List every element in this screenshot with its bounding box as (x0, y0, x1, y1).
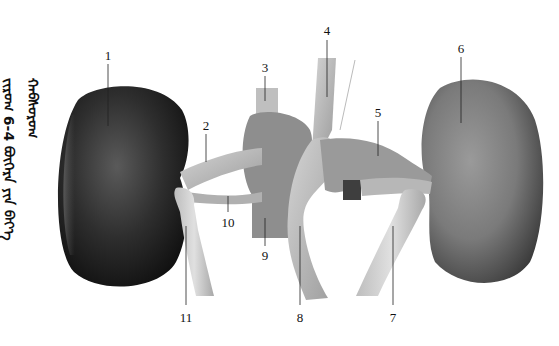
label-10: 10 (222, 215, 235, 230)
label-1: 1 (105, 48, 112, 63)
label-5: 5 (375, 105, 382, 120)
right-ureter (356, 189, 426, 296)
label-9: 9 (262, 248, 269, 263)
label-8: 8 (297, 310, 304, 325)
right-kidney (422, 79, 544, 283)
label-11: 11 (180, 310, 193, 325)
label-3: 3 (262, 60, 269, 75)
label-2: 2 (203, 118, 210, 133)
left-kidney (58, 86, 189, 286)
anatomy-figure: 1 2 3 4 5 6 7 8 9 10 11 (0, 0, 559, 346)
label-4: 4 (324, 23, 331, 38)
label-7: 7 (390, 310, 397, 325)
label-6: 6 (458, 41, 465, 56)
